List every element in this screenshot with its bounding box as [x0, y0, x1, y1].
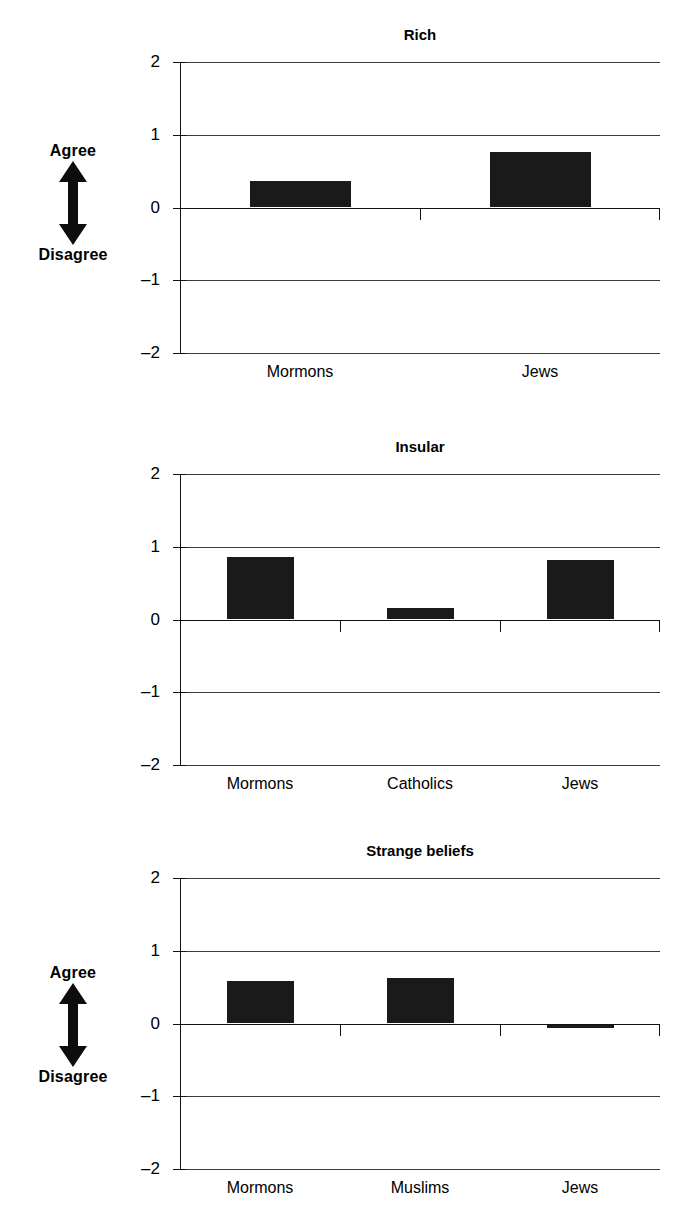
x-divider-tick-end	[659, 621, 660, 632]
x-divider-tick-end	[659, 1025, 660, 1036]
bar-jews	[547, 1025, 614, 1028]
x-divider-tick-end	[659, 209, 660, 220]
y-tick-label-1: 1	[126, 538, 160, 555]
chart-panel-3: AgreeDisagreeStrange beliefsMormonsMusli…	[0, 838, 687, 1224]
y-tick--2	[173, 353, 186, 354]
chart-panel-2: AgreeDisagreeInsularMormonsCatholicsJews…	[0, 430, 687, 820]
chart-title: Insular	[180, 438, 660, 455]
y-axis-spine	[180, 878, 181, 1169]
x-divider-tick-1	[340, 1025, 341, 1036]
chart-title: Strange beliefs	[180, 842, 660, 859]
zero-axis-line	[180, 620, 660, 621]
y-tick-label-0: 0	[126, 199, 160, 216]
bar-mormons	[250, 181, 351, 208]
x-category-label-catholics: Catholics	[340, 775, 500, 793]
gridline-1	[180, 135, 660, 136]
x-divider-tick-1	[420, 209, 421, 220]
x-divider-tick-2	[500, 1025, 501, 1036]
bar-mormons	[227, 981, 294, 1023]
x-category-label-jews: Jews	[500, 1179, 660, 1197]
plot-area: 210–1–2	[180, 62, 660, 353]
double-headed-vertical-arrow-icon	[8, 160, 138, 246]
gridline-2	[180, 878, 660, 879]
gridline--2	[180, 765, 660, 766]
disagree-label: Disagree	[8, 246, 138, 264]
bar-mormons	[227, 557, 294, 620]
y-tick-label-1: 1	[126, 126, 160, 143]
y-tick-label-2: 2	[126, 465, 160, 482]
gridline-2	[180, 474, 660, 475]
x-category-label-mormons: Mormons	[180, 775, 340, 793]
y-tick-label-2: 2	[126, 869, 160, 886]
y-tick-label-0: 0	[126, 611, 160, 628]
agree-disagree-annotation: AgreeDisagree	[8, 142, 138, 264]
plot-area: 210–1–2	[180, 878, 660, 1169]
gridline--2	[180, 1169, 660, 1170]
y-tick-label--2: –2	[126, 1160, 160, 1177]
agree-label: Agree	[8, 142, 138, 160]
y-tick-label--1: –1	[126, 683, 160, 700]
x-category-label-muslims: Muslims	[340, 1179, 500, 1197]
x-divider-tick-2	[500, 621, 501, 632]
gridline--1	[180, 1096, 660, 1097]
x-category-label-mormons: Mormons	[180, 1179, 340, 1197]
gridline--2	[180, 353, 660, 354]
x-category-label-mormons: Mormons	[180, 363, 420, 381]
y-axis-spine	[180, 62, 181, 353]
y-tick-label-2: 2	[126, 53, 160, 70]
gridline-1	[180, 547, 660, 548]
chart-panel-1: AgreeDisagreeRichMormonsJews210–1–2	[0, 20, 687, 408]
y-tick-label--1: –1	[126, 271, 160, 288]
gridline-1	[180, 951, 660, 952]
gridline-2	[180, 62, 660, 63]
y-tick-label--2: –2	[126, 756, 160, 773]
x-category-label-jews: Jews	[420, 363, 660, 381]
y-tick--2	[173, 765, 186, 766]
plot-area: 210–1–2	[180, 474, 660, 765]
gridline--1	[180, 280, 660, 281]
bar-catholics	[387, 608, 454, 620]
x-divider-tick-1	[340, 621, 341, 632]
y-axis-spine	[180, 474, 181, 765]
y-tick-label-0: 0	[126, 1015, 160, 1032]
bar-muslims	[387, 978, 454, 1024]
bar-jews	[490, 152, 591, 207]
y-tick-label--1: –1	[126, 1087, 160, 1104]
y-tick--2	[173, 1169, 186, 1170]
x-category-label-jews: Jews	[500, 775, 660, 793]
chart-title: Rich	[180, 26, 660, 43]
y-tick-label--2: –2	[126, 344, 160, 361]
gridline--1	[180, 692, 660, 693]
bar-jews	[547, 560, 614, 620]
y-tick-label-1: 1	[126, 942, 160, 959]
